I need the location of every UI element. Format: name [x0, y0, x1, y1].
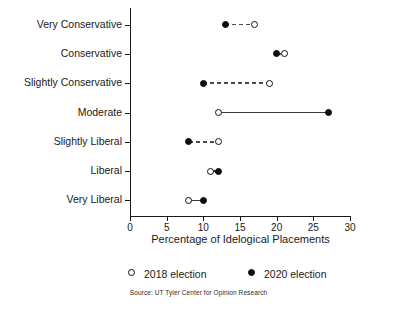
x-tick-label: 25 — [301, 222, 325, 233]
data-point-2018[interactable] — [215, 109, 222, 116]
x-tick — [240, 216, 241, 221]
y-category-label: Liberal — [90, 165, 122, 176]
x-tick-label: 0 — [118, 222, 142, 233]
data-point-2018[interactable] — [251, 21, 258, 28]
legend-label-2020: 2020 election — [264, 268, 326, 280]
data-point-2020[interactable] — [325, 109, 332, 116]
x-tick — [167, 216, 168, 221]
filled-circle-marker-icon — [248, 269, 255, 276]
legend-label-2018: 2018 election — [144, 268, 206, 280]
open-circle-marker-icon — [128, 269, 135, 276]
y-tick — [125, 113, 130, 114]
y-tick — [125, 142, 130, 143]
x-tick — [277, 216, 278, 221]
source-note: Source: UT Tyler Center for Opinion Rese… — [0, 289, 397, 296]
data-point-2018[interactable] — [185, 197, 192, 204]
row-connector-line — [189, 141, 218, 143]
x-tick-label: 10 — [191, 222, 215, 233]
chart-legend: 2018 election 2020 election — [110, 264, 360, 280]
x-tick — [350, 216, 351, 221]
y-tick — [125, 200, 130, 201]
x-tick-label: 15 — [228, 222, 252, 233]
x-tick-label: 30 — [338, 222, 362, 233]
x-tick — [203, 216, 204, 221]
data-point-2020[interactable] — [200, 80, 207, 87]
data-point-2020[interactable] — [273, 50, 280, 57]
data-point-2020[interactable] — [185, 138, 192, 145]
dumbbell-chart-figure: Very ConservativeConservativeSlightly Co… — [0, 0, 397, 309]
y-axis-category-labels: Very ConservativeConservativeSlightly Co… — [0, 0, 122, 309]
y-category-label: Slightly Conservative — [24, 77, 122, 88]
y-tick — [125, 25, 130, 26]
legend-entry-2018[interactable]: 2018 election — [128, 264, 206, 280]
data-point-2020[interactable] — [200, 197, 207, 204]
data-point-2018[interactable] — [207, 168, 214, 175]
y-tick — [125, 171, 130, 172]
data-point-2020[interactable] — [215, 168, 222, 175]
x-axis-title: Percentage of Idelogical Placements — [130, 233, 351, 245]
row-connector-line — [218, 112, 328, 114]
y-category-label: Slightly Liberal — [54, 136, 122, 147]
row-connector-line — [203, 82, 269, 84]
x-tick-label: 20 — [265, 222, 289, 233]
x-tick — [313, 216, 314, 221]
y-category-label: Very Conservative — [37, 19, 122, 30]
data-point-2020[interactable] — [222, 21, 229, 28]
y-category-label: Moderate — [78, 107, 122, 118]
y-tick — [125, 83, 130, 84]
plot-area — [130, 10, 350, 215]
data-point-2018[interactable] — [215, 138, 222, 145]
y-category-label: Conservative — [61, 48, 122, 59]
x-tick — [130, 216, 131, 221]
y-category-label: Very Liberal — [67, 194, 122, 205]
x-tick-label: 5 — [155, 222, 179, 233]
data-point-2018[interactable] — [281, 50, 288, 57]
y-tick — [125, 54, 130, 55]
legend-entry-2020[interactable]: 2020 election — [248, 264, 326, 280]
data-point-2018[interactable] — [266, 80, 273, 87]
